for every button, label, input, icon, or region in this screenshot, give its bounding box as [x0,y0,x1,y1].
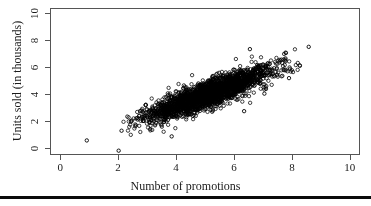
y-tick-6 [45,67,50,68]
scatter-plot-figure: 0246810 0246810 Number of promotions Uni… [0,0,371,206]
y-tick-label-8: 8 [29,32,40,48]
scatter-points-layer [50,8,360,155]
x-tick-label-8: 8 [277,161,307,173]
x-tick-8 [292,155,293,160]
bottom-divider-rule [0,196,371,199]
y-tick-0 [45,148,50,149]
x-tick-label-10: 10 [335,161,365,173]
y-tick-4 [45,94,50,95]
y-tick-2 [45,121,50,122]
y-tick-label-4: 4 [29,86,40,102]
x-tick-label-2: 2 [103,161,133,173]
y-tick-label-0: 0 [29,140,40,156]
y-tick-label-10: 10 [29,5,40,21]
x-tick-2 [118,155,119,160]
x-axis-title: Number of promotions [0,179,371,193]
x-tick-10 [350,155,351,160]
y-axis-title: Units sold (in thousands) [10,6,24,156]
x-tick-6 [234,155,235,160]
x-tick-label-6: 6 [219,161,249,173]
x-tick-0 [60,155,61,160]
x-tick-4 [176,155,177,160]
x-tick-label-0: 0 [45,161,75,173]
x-tick-label-4: 4 [161,161,191,173]
y-tick-10 [45,13,50,14]
y-tick-label-6: 6 [29,59,40,75]
y-tick-label-2: 2 [29,113,40,129]
y-tick-8 [45,40,50,41]
